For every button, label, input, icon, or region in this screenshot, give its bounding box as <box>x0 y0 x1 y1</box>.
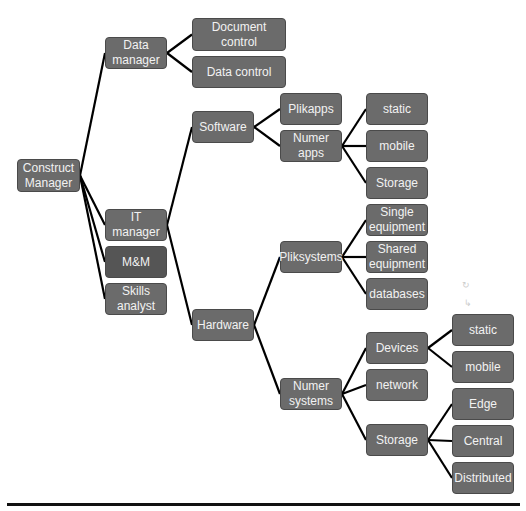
edge-it-sw <box>167 127 192 225</box>
edge-pliksys-single <box>342 220 366 257</box>
node-mobile2: mobile <box>452 351 514 383</box>
bottom-rule <box>7 503 520 506</box>
node-skills: Skills analyst <box>105 283 167 315</box>
node-datac: Data control <box>192 56 286 88</box>
edge-numapps-static1 <box>342 109 366 146</box>
node-devices: Devices <box>366 332 428 364</box>
edge-root-skills <box>80 176 105 300</box>
node-storage2: Storage <box>366 424 428 456</box>
node-mobile1: mobile <box>366 130 428 162</box>
node-static1: static <box>366 93 428 125</box>
node-pliksys: Pliksystems <box>280 241 342 273</box>
node-mm: M&M <box>105 246 167 278</box>
node-network: network <box>366 369 428 401</box>
edge-hw-pliksys <box>254 257 280 325</box>
node-distributed: Distributed <box>452 462 514 494</box>
node-db: databases <box>366 278 428 310</box>
node-root: Construct Manager <box>17 159 80 192</box>
edge-numapps-storage1 <box>342 146 366 183</box>
edge-storage2-distributed <box>428 440 452 478</box>
node-numapps: Numer apps <box>280 130 342 162</box>
edge-sw-numapps <box>254 127 280 146</box>
node-storage1: Storage <box>366 167 428 199</box>
edge-storage2-central <box>428 440 452 441</box>
edge-root-dm <box>80 53 105 176</box>
edge-it-hw <box>167 225 192 325</box>
edge-pliksys-db <box>342 257 366 294</box>
node-numsys: Numer systems <box>280 378 342 410</box>
node-shared: Shared equipment <box>366 241 428 273</box>
node-dm: Data manager <box>105 37 167 69</box>
node-hw: Hardware <box>192 309 254 341</box>
node-it: IT manager <box>105 209 167 241</box>
scan-artifact-icon: ↳ <box>464 298 472 308</box>
edge-sw-plikapps <box>254 109 280 127</box>
node-doc: Document control <box>192 18 286 51</box>
node-edge: Edge <box>452 388 514 420</box>
hierarchy-diagram: Construct ManagerData managerDocument co… <box>0 0 526 511</box>
edge-dm-doc <box>167 35 192 54</box>
node-central: Central <box>452 425 514 457</box>
edge-devices-static2 <box>428 330 452 348</box>
edge-dm-datac <box>167 53 192 72</box>
scan-artifact-icon: ↻ <box>462 280 470 290</box>
node-single: Single equipment <box>366 204 428 236</box>
edge-hw-numsys <box>254 325 280 394</box>
edge-numsys-storage2 <box>342 394 366 440</box>
node-plikapps: Plikapps <box>280 93 342 125</box>
node-static2: static <box>452 314 514 346</box>
node-sw: Software <box>192 111 254 143</box>
edge-storage2-edge <box>428 404 452 440</box>
edge-devices-mobile2 <box>428 348 452 367</box>
